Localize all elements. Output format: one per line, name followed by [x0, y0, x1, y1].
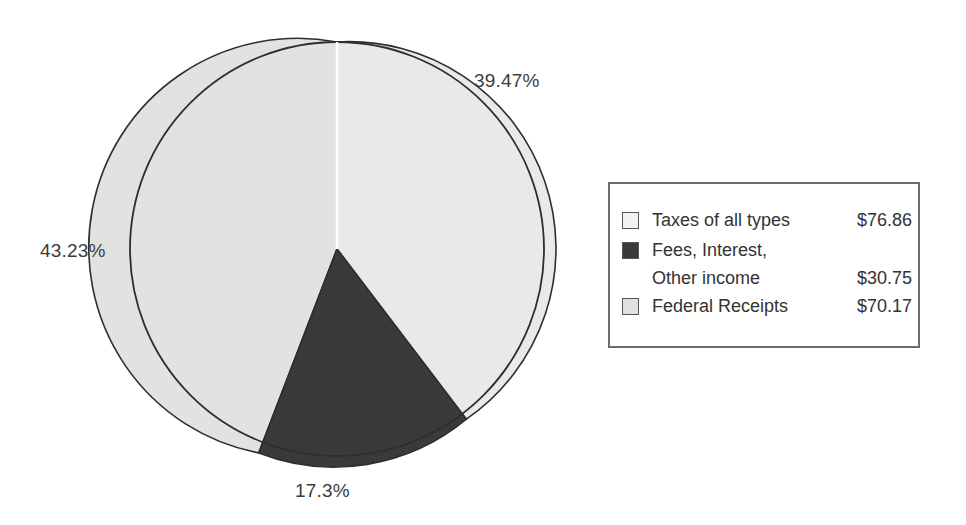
pie-percent-label-federal-receipts: 43.23% [40, 240, 106, 262]
legend-label-fees-line1: Fees, Interest, [652, 240, 912, 261]
legend-value-fees: $30.75 [857, 268, 912, 289]
pie-percent-label-taxes: 39.47% [474, 70, 540, 92]
legend-value-taxes: $76.86 [857, 210, 912, 231]
legend-swatch-icon-federal-receipts [622, 298, 639, 315]
legend-item-fees-second-line: Other income $30.75 [652, 264, 912, 292]
legend-label-fees-line2: Other income [652, 268, 857, 289]
chart-legend: Taxes of all types $76.86 Fees, Interest… [608, 182, 920, 348]
legend-item-fees-interest-other-income[interactable]: Fees, Interest, [622, 236, 912, 264]
legend-label-federal-receipts: Federal Receipts [652, 296, 857, 317]
legend-label-taxes: Taxes of all types [652, 210, 857, 231]
legend-item-taxes-of-all-types[interactable]: Taxes of all types $76.86 [622, 206, 912, 234]
legend-swatch-icon-taxes [622, 212, 639, 229]
pie-chart-figure: 39.47% 43.23% 17.3% Taxes of all types $… [0, 0, 966, 525]
pie-percent-label-fees: 17.3% [295, 480, 350, 502]
legend-item-federal-receipts[interactable]: Federal Receipts $70.17 [622, 292, 912, 320]
legend-value-federal-receipts: $70.17 [857, 296, 912, 317]
legend-swatch-icon-fees [622, 242, 639, 259]
